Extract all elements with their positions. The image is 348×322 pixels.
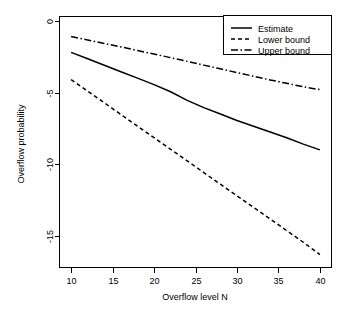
- chart-container: 10152025303540 0-5-10-15 Overflow level …: [0, 0, 348, 322]
- y-tick-label: -15: [45, 230, 55, 243]
- x-tick-label: 10: [66, 276, 76, 286]
- legend-label-lower-bound: Lower bound: [258, 35, 310, 45]
- y-tick-label: -5: [45, 89, 55, 97]
- y-tick-label: 0: [45, 19, 55, 24]
- x-tick-label: 15: [108, 276, 118, 286]
- x-tick-label: 25: [191, 276, 201, 286]
- y-axis: 0-5-10-15: [45, 19, 60, 243]
- x-axis-title: Overflow level N: [162, 292, 228, 302]
- x-tick-label: 35: [273, 276, 283, 286]
- series-lower-bound: [71, 80, 320, 255]
- chart-legend: EstimateLower boundUpper bound: [224, 16, 332, 56]
- y-axis-title: Overflow probability: [16, 104, 26, 184]
- series-group: [71, 37, 320, 255]
- x-tick-label: 30: [232, 276, 242, 286]
- legend-label-upper-bound: Upper bound: [258, 46, 310, 56]
- x-axis: 10152025303540: [66, 268, 325, 286]
- x-tick-label: 40: [315, 276, 325, 286]
- y-tick-label: -10: [45, 158, 55, 171]
- legend-label-estimate: Estimate: [258, 24, 293, 34]
- x-tick-label: 20: [149, 276, 159, 286]
- series-estimate: [71, 52, 320, 150]
- line-chart: 10152025303540 0-5-10-15 Overflow level …: [0, 0, 348, 322]
